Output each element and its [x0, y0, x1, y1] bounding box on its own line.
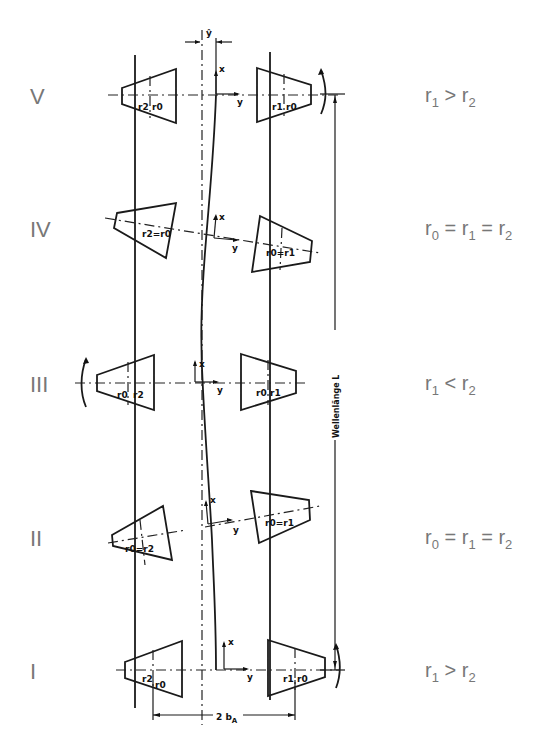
svg-text:r1: r1 — [272, 102, 283, 112]
rotation-arrow-icon — [336, 645, 340, 688]
svg-text:r0=r1: r0=r1 — [266, 248, 295, 258]
wavelength-label: Wellenlänge L — [332, 375, 341, 438]
condition-ii: r0 = r1 = r2 — [425, 526, 512, 552]
condition-i: r1 > r2 — [425, 659, 476, 685]
condition-v: r1 > r2 — [425, 84, 476, 110]
svg-text:r0: r0 — [155, 680, 166, 690]
row-ii-wheelset: r0=r2 r0=r1 xy — [108, 491, 320, 565]
condition-iv: r0 = r1 = r2 — [425, 217, 512, 243]
row-label-iv: IV — [30, 217, 51, 243]
svg-text:r2: r2 — [133, 390, 144, 400]
svg-text:y: y — [237, 97, 243, 107]
svg-text:y: y — [232, 243, 238, 253]
row-label-v: V — [30, 84, 45, 110]
svg-text:y: y — [247, 672, 253, 682]
svg-text:r2: r2 — [138, 102, 149, 112]
condition-iii: r1 < r2 — [425, 372, 476, 398]
svg-text:r0: r0 — [286, 102, 297, 112]
svg-text:y: y — [217, 385, 223, 395]
svg-text:r0: r0 — [152, 102, 163, 112]
svg-text:x: x — [228, 637, 234, 647]
svg-text:r0: r0 — [117, 390, 128, 400]
svg-text:r2=r0: r2=r0 — [142, 229, 171, 239]
svg-text:r2: r2 — [142, 674, 153, 684]
svg-text:r1: r1 — [270, 388, 281, 398]
svg-text:x: x — [210, 495, 216, 505]
yhat-label: ŷ — [206, 28, 212, 38]
row-iv-wheelset: r2=r0 r0=r1 xy — [105, 203, 320, 272]
row-label-i: I — [30, 659, 36, 685]
left-wheel-cone — [97, 355, 154, 410]
svg-text:x: x — [199, 359, 205, 369]
svg-text:r0=r1: r0=r1 — [265, 518, 294, 528]
svg-text:x: x — [219, 64, 225, 74]
svg-text:r0: r0 — [297, 674, 308, 684]
row-i-wheelset: r2r0 r1r0 xy — [116, 637, 340, 697]
row-label-ii: II — [30, 526, 42, 552]
svg-text:r0=r2: r0=r2 — [125, 544, 154, 554]
svg-text:x: x — [219, 212, 225, 222]
row-v-wheelset: r2r0 r1r0 xy — [108, 64, 340, 123]
left-wheel-cone — [122, 69, 176, 123]
svg-text:r0: r0 — [256, 388, 267, 398]
svg-text:r1: r1 — [283, 674, 294, 684]
right-wheel-cone — [268, 640, 325, 696]
rotation-arrow-icon — [321, 70, 326, 114]
svg-text:y: y — [233, 525, 239, 535]
right-wheel-cone — [252, 216, 312, 272]
row-label-iii: III — [30, 372, 48, 398]
